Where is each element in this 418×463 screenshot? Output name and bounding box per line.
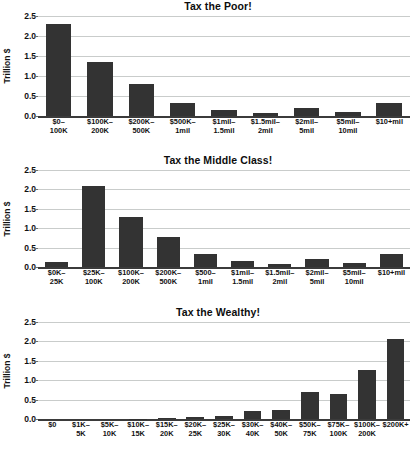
x-axis-tick-label: $75K–100K: [324, 419, 353, 438]
y-axis-label-text: Trillion $: [2, 49, 12, 84]
bar[interactable]: [253, 113, 279, 116]
bar[interactable]: [335, 112, 361, 116]
x-axis-tick-label: $200K–500K: [150, 267, 187, 286]
bar[interactable]: [45, 262, 68, 267]
bar-slot: [324, 322, 353, 419]
bar[interactable]: [211, 110, 237, 116]
bar[interactable]: [46, 24, 72, 116]
x-axis-tick-label: $40K–50K: [267, 419, 296, 438]
bar[interactable]: [301, 392, 319, 419]
bar-slot: [75, 170, 112, 267]
x-axis-tick-label: $5mil–10mil: [327, 116, 368, 135]
y-axis-tickmark: [34, 419, 38, 420]
x-axis-tick-label: $5mil–10mil: [336, 267, 373, 286]
bar[interactable]: [343, 263, 366, 267]
x-axis-tick-label: $2mil–5mil: [298, 267, 335, 286]
x-axis-tick-label: $5K–10K: [95, 419, 124, 438]
x-axis-tick-label: $500–1mil: [187, 267, 224, 286]
x-axis-labels: $0–100K$100K–200K$200K–500K$500K–1mil$1m…: [0, 116, 418, 135]
bar[interactable]: [158, 418, 176, 419]
bar-slot: [187, 170, 224, 267]
x-axis-tick-label: $10+mil: [373, 267, 410, 286]
bar[interactable]: [330, 394, 348, 419]
bar-slot: [38, 170, 75, 267]
bar-slot: [298, 170, 335, 267]
bar-slot: [124, 322, 153, 419]
bar[interactable]: [387, 339, 405, 419]
x-axis-tick-label: $1.5mil–2mil: [261, 267, 298, 286]
bar-slot: [327, 16, 368, 116]
bar-slot: [203, 16, 244, 116]
x-axis-tick-label: $1mil–1.5mil: [203, 116, 244, 135]
x-axis-baseline: [38, 419, 410, 421]
x-axis-tick-label: $30K–40K: [238, 419, 267, 438]
y-axis-label: Trillion $: [0, 322, 14, 419]
bar-slot: [373, 170, 410, 267]
y-axis-label: Trillion $: [0, 16, 14, 116]
x-axis-tick-label: $0: [38, 419, 67, 438]
bar[interactable]: [305, 259, 328, 267]
bar-slot: [336, 170, 373, 267]
bar[interactable]: [294, 108, 320, 116]
bar-slot: [295, 322, 324, 419]
y-axis-label: Trillion $: [0, 170, 14, 267]
bar-slot: [67, 322, 96, 419]
bar-slot: [261, 170, 298, 267]
bar[interactable]: [186, 417, 204, 419]
x-axis-tick-label: $10+mil: [369, 116, 410, 135]
y-axis-label-text: Trillion $: [2, 201, 12, 236]
bar-series: [38, 16, 410, 116]
bar-slot: [267, 322, 296, 419]
bar-slot: [181, 322, 210, 419]
bar[interactable]: [358, 370, 376, 419]
x-axis-tick-label: $100K–200K: [112, 267, 149, 286]
x-axis-baseline: [38, 267, 410, 269]
x-axis-tick-label: $1K–5K: [67, 419, 96, 438]
figure-page: Tax the Poor! Trillion $ 0.00.51.01.52.0…: [0, 0, 418, 463]
bar-slot: [150, 170, 187, 267]
bar[interactable]: [170, 103, 196, 116]
x-axis-tick-label: $1.5mil–2mil: [245, 116, 286, 135]
bar-slot: [245, 16, 286, 116]
bar[interactable]: [231, 261, 254, 267]
bar[interactable]: [87, 62, 113, 116]
x-axis-tick-label: $10K–15K: [124, 419, 153, 438]
x-axis-tick-label: $2mil–5mil: [286, 116, 327, 135]
bar-slot: [79, 16, 120, 116]
x-axis-labels: $0K–25K$25K–100K$100K–200K$200K–500K$500…: [0, 267, 418, 286]
bar-slot: [286, 16, 327, 116]
chart-tax-the-poor: Tax the Poor! Trillion $ 0.00.51.01.52.0…: [0, 0, 418, 154]
x-axis-tick-label: $20K–25K: [181, 419, 210, 438]
bar[interactable]: [376, 103, 402, 116]
x-axis-tick-label: $1mil–1.5mil: [224, 267, 261, 286]
bar[interactable]: [119, 217, 142, 267]
x-axis-labels: $0$1K–5K$5K–10K$10K–15K$15K–20K$20K–25K$…: [0, 419, 418, 438]
x-axis-tick-label: $0–100K: [38, 116, 79, 135]
y-axis-ticks: 0.00.51.01.52.02.5: [14, 16, 38, 116]
bar-series: [38, 170, 410, 267]
bar[interactable]: [82, 186, 105, 267]
bar[interactable]: [244, 411, 262, 419]
bar-slot: [38, 322, 67, 419]
y-axis-ticks: 0.00.51.01.52.02.5: [14, 322, 38, 419]
bar-slot: [353, 322, 382, 419]
bar-slot: [112, 170, 149, 267]
y-axis-tickmark: [34, 267, 38, 268]
bar-series: [38, 322, 410, 419]
bar[interactable]: [268, 264, 291, 267]
chart-title: Tax the Wealthy!: [0, 306, 418, 318]
bar[interactable]: [380, 254, 403, 267]
bar[interactable]: [272, 410, 290, 419]
x-axis-tick-label: $15K–20K: [152, 419, 181, 438]
bar-slot: [224, 170, 261, 267]
plot-area: [38, 16, 410, 116]
bar[interactable]: [215, 416, 233, 419]
y-axis-ticks: 0.00.51.01.52.02.5: [14, 170, 38, 267]
plot-area: [38, 170, 410, 267]
bar[interactable]: [194, 254, 217, 267]
bar-slot: [238, 322, 267, 419]
bar-slot: [210, 322, 239, 419]
bar[interactable]: [129, 84, 155, 116]
bar[interactable]: [157, 237, 180, 267]
x-axis-baseline: [38, 116, 410, 118]
